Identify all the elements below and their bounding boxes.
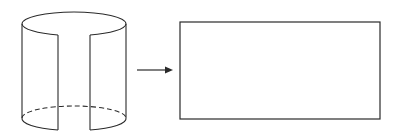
cylinder-bottom-ellipse-front-right bbox=[90, 118, 126, 130]
cylinder-bottom-ellipse-front-left bbox=[22, 118, 58, 130]
cylinder bbox=[22, 12, 126, 130]
arrow-head-icon bbox=[165, 67, 173, 74]
cylinder-top-ellipse-front-right bbox=[90, 24, 126, 35]
unrolled-rectangle bbox=[180, 22, 380, 119]
arrow bbox=[137, 67, 173, 74]
cylinder-top-ellipse-front-left bbox=[22, 24, 58, 35]
cylinder-top-ellipse-back bbox=[22, 12, 126, 24]
diagram-svg bbox=[0, 0, 397, 138]
cylinder-bottom-ellipse-back bbox=[22, 106, 126, 118]
diagram-canvas bbox=[0, 0, 397, 138]
